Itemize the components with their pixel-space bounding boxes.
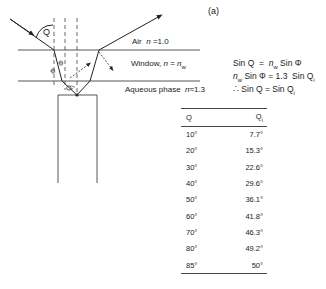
panel-label: (a) [208,6,219,16]
table-row: 70°46.3° [181,224,267,240]
layer-label-aqueous: Aqueous phase n≈1.3 [125,85,205,95]
table-row: 10°7.7° [181,126,267,143]
angle-label-phi: Φ [55,60,65,66]
table-row: 30°22.6° [181,159,267,175]
header-q: Q [181,109,228,127]
sample-block [58,95,97,183]
table-row: 80°49.2° [181,241,267,257]
angle-label-q: Q [43,27,50,37]
table-row: 60°41.8° [181,208,267,224]
header-qi: Qi [228,109,267,127]
angle-label-phi-2: Φ [47,68,57,74]
table-row: 85°50° [181,257,267,274]
table-row: 40°29.6° [181,175,267,191]
scattered-arrow-1 [70,64,89,78]
table-row: 20°15.3° [181,143,267,159]
equation-3: ∴ Sin Q = Sin Qi [233,84,295,99]
scattered-arrow-2 [99,52,112,69]
angle-table: Q Qi 10°7.7° 20°15.3° 30°22.6° 40°29.6° … [181,108,267,274]
layer-label-air: Air n =1.0 [132,37,169,47]
table-row: 50°36.1° [181,192,267,208]
layer-label-window: Window, n = nw [131,59,186,72]
